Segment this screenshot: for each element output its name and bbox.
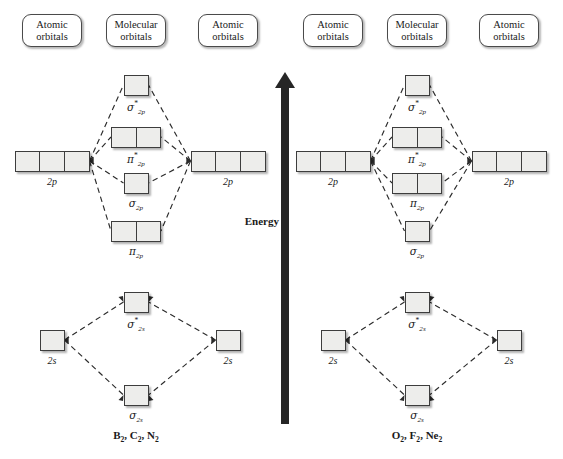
orbital-cell — [498, 331, 521, 350]
header-molecular-orbitals: Molecularorbitals — [387, 14, 447, 47]
orbital-cell — [41, 331, 64, 350]
molecular-orbital-sigma-star-2s — [405, 292, 430, 313]
molecular-orbital-sigma-star-2s — [124, 292, 149, 313]
orbital-cell — [406, 76, 429, 95]
molecular-orbital-label-sigma-2p: σ2p — [277, 246, 558, 260]
header-line-2: orbitals — [107, 31, 165, 43]
mo-diagram-right: AtomicorbitalsMolecularorbitalsAtomicorb… — [281, 0, 562, 459]
orbital-cell — [406, 386, 429, 405]
orbital-cell — [393, 174, 418, 193]
orbital-cell — [137, 222, 161, 241]
molecular-orbital-pi-2p — [392, 173, 442, 194]
molecular-orbital-pi-2p — [111, 221, 161, 242]
header-line-2: orbitals — [199, 31, 257, 43]
orbital-cell — [125, 76, 148, 95]
molecular-orbital-pi-star-2p — [392, 127, 442, 148]
header-molecular-orbitals: Molecularorbitals — [106, 14, 166, 47]
up-arrow-icon — [271, 68, 301, 428]
header-line-2: orbitals — [480, 31, 538, 43]
header-line-2: orbitals — [23, 31, 81, 43]
molecular-orbital-sigma-2s — [405, 385, 430, 406]
molecule-formula-caption: B2, C2, N2 — [0, 429, 277, 444]
mo-diagram-left: AtomicorbitalsMolecularorbitalsAtomicorb… — [0, 0, 281, 459]
atomic-orbital-right-label: 2s — [369, 356, 563, 366]
molecular-orbital-label-pi-star-2p: π*2p — [0, 152, 277, 168]
orbital-cell — [125, 386, 148, 405]
orbital-cell — [406, 222, 429, 241]
orbital-cell — [112, 222, 137, 241]
atomic-orbital-left-2s — [321, 330, 346, 351]
molecular-orbital-label-sigma-2p: σ2p — [0, 198, 277, 212]
orbital-cell — [125, 293, 148, 312]
molecular-orbital-label-pi-2p: π2p — [0, 246, 277, 260]
header-line-1: Atomic — [23, 19, 81, 31]
orbital-cell — [393, 128, 418, 147]
orbital-cell — [322, 331, 345, 350]
orbital-cell — [406, 293, 429, 312]
header-line-2: orbitals — [304, 31, 362, 43]
molecule-formula-caption: O2, F2, Ne2 — [277, 429, 558, 444]
orbital-cell — [217, 331, 240, 350]
molecular-orbital-sigma-2p — [124, 173, 149, 194]
molecular-orbital-sigma-star-2p — [124, 75, 149, 96]
molecular-orbital-label-sigma-star-2p: σ*2p — [277, 100, 558, 116]
header-line-1: Atomic — [480, 19, 538, 31]
molecular-orbital-label-pi-2p: π2p — [277, 198, 558, 212]
atomic-orbital-left-2s — [40, 330, 65, 351]
orbital-cell — [418, 174, 442, 193]
atomic-orbital-right-2s — [497, 330, 522, 351]
energy-axis-label: Energy — [213, 215, 279, 227]
header-atomic-orbitals-right: Atomicorbitals — [479, 14, 539, 47]
atomic-orbital-right-2s — [216, 330, 241, 351]
energy-axis-arrow — [271, 68, 301, 432]
molecular-orbital-label-sigma-2s: σ2s — [277, 410, 558, 424]
molecular-orbital-label-sigma-star-2p: σ*2p — [0, 100, 277, 116]
molecular-orbital-pi-star-2p — [111, 127, 161, 148]
molecular-orbital-sigma-star-2p — [405, 75, 430, 96]
orbital-cell — [125, 174, 148, 193]
orbital-cell — [112, 128, 137, 147]
header-line-1: Molecular — [107, 19, 165, 31]
orbital-cell — [418, 128, 442, 147]
header-line-1: Molecular — [388, 19, 446, 31]
molecular-orbital-sigma-2s — [124, 385, 149, 406]
header-line-1: Atomic — [199, 19, 257, 31]
orbital-cell — [137, 128, 161, 147]
header-atomic-orbitals-left: Atomicorbitals — [303, 14, 363, 47]
molecular-orbital-label-sigma-2s: σ2s — [0, 410, 277, 424]
molecular-orbital-label-sigma-star-2s: σ*2s — [0, 317, 277, 333]
molecular-orbital-sigma-2p — [405, 221, 430, 242]
header-line-1: Atomic — [304, 19, 362, 31]
header-line-2: orbitals — [388, 31, 446, 43]
header-atomic-orbitals-right: Atomicorbitals — [198, 14, 258, 47]
header-atomic-orbitals-left: Atomicorbitals — [22, 14, 82, 47]
molecular-orbital-label-sigma-star-2s: σ*2s — [277, 317, 558, 333]
molecular-orbital-label-pi-star-2p: π*2p — [277, 152, 558, 168]
